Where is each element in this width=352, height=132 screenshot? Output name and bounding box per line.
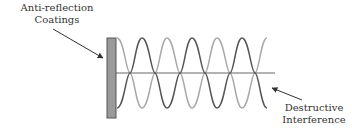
coating-label-line1: Anti-reflection <box>18 2 96 14</box>
destructive-arrow <box>272 88 302 100</box>
coating-arrow <box>53 29 103 58</box>
coating-label-line2: Coatings <box>18 14 96 26</box>
coating-layer <box>107 38 116 118</box>
anti-reflection-diagram: Anti-reflection Coatings Destructive Int… <box>0 0 352 132</box>
coating-label: Anti-reflection Coatings <box>18 2 96 26</box>
destructive-label-line2: Interference <box>276 114 352 126</box>
destructive-label: Destructive Interference <box>276 102 352 126</box>
destructive-label-line1: Destructive <box>276 102 352 114</box>
